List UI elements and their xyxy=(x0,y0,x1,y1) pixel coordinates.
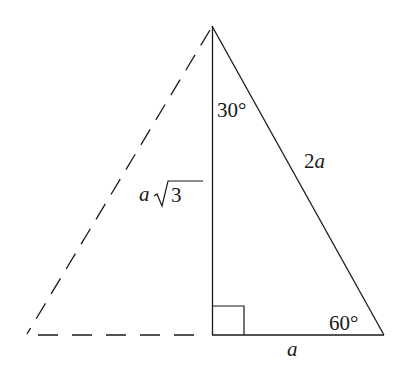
hypotenuse-variable: a xyxy=(315,149,326,173)
height-variable: a xyxy=(139,182,150,206)
right-angle-marker xyxy=(213,306,244,335)
angle-60-label: 60° xyxy=(329,313,358,334)
hypotenuse-line xyxy=(212,26,384,335)
angle-30-label: 30° xyxy=(217,100,246,121)
hypotenuse-label: 2a xyxy=(304,151,325,172)
base-label: a xyxy=(287,339,298,360)
height-label: a xyxy=(139,184,150,205)
hypotenuse-coefficient: 2 xyxy=(304,149,315,173)
height-radicand: 3 xyxy=(171,185,182,206)
